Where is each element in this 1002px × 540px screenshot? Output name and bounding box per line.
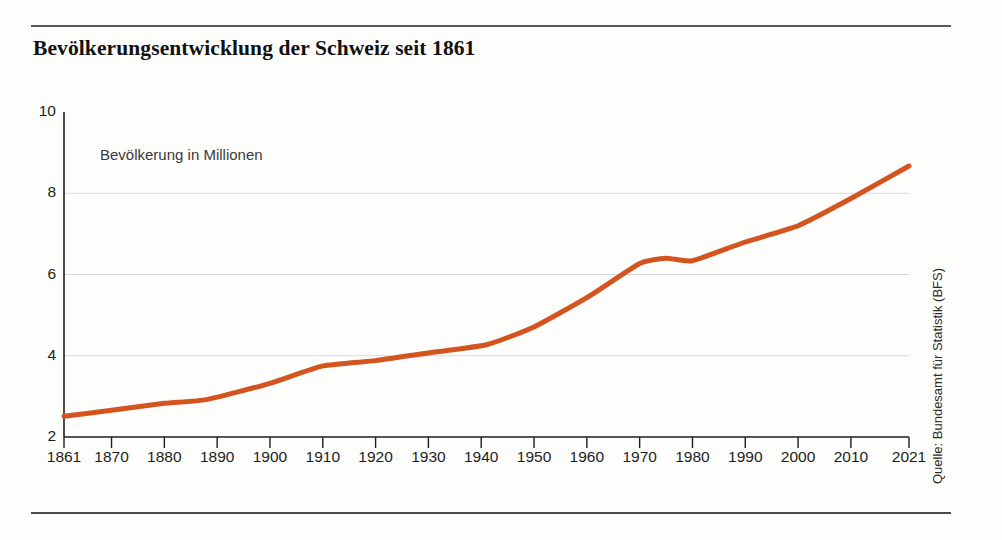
bottom-divider-rule: [31, 512, 951, 514]
x-axis-tick-label: 1990: [728, 448, 762, 466]
page-title: Bevölkerungsentwicklung der Schweiz seit…: [33, 36, 475, 61]
x-axis-tick-label: 1980: [675, 448, 709, 466]
y-axis-tick-labels: 246810: [24, 112, 56, 437]
line-chart-svg: [64, 112, 909, 437]
x-axis-tick-label: 2000: [781, 448, 815, 466]
population-line-series: [64, 166, 909, 416]
y-axis-tick-label: 6: [26, 265, 56, 283]
plot-area: [64, 112, 909, 437]
x-axis-tick-label: 1970: [622, 448, 656, 466]
x-axis-tick-label: 1900: [253, 448, 287, 466]
x-axis-tick-label: 1880: [147, 448, 181, 466]
x-axis-tick-label: 1890: [200, 448, 234, 466]
y-axis-tick-label: 10: [26, 102, 56, 120]
x-axis-tick-label: 1930: [411, 448, 445, 466]
y-axis-tick-label: 8: [26, 183, 56, 201]
top-divider-rule: [31, 25, 951, 27]
y-axis-tick-label: 4: [26, 346, 56, 364]
x-axis-tick-label: 1861: [47, 448, 81, 466]
chart-page: Bevölkerungsentwicklung der Schweiz seit…: [0, 0, 1002, 540]
x-axis-tick-label: 1960: [570, 448, 604, 466]
x-axis-tick-label: 1940: [464, 448, 498, 466]
x-axis-tick-labels: 1861187018801890190019101920193019401950…: [64, 448, 909, 472]
x-axis-tick-label: 1950: [517, 448, 551, 466]
source-credit: Quelle: Bundesamt für Statistik (BFS): [930, 268, 945, 484]
x-axis-tick-label: 2021: [892, 448, 926, 466]
x-axis-tick-label: 1870: [94, 448, 128, 466]
x-axis-tick-label: 2010: [834, 448, 868, 466]
x-axis-tick-label: 1920: [358, 448, 392, 466]
x-axis-tick-label: 1910: [306, 448, 340, 466]
y-axis-tick-label: 2: [26, 427, 56, 445]
